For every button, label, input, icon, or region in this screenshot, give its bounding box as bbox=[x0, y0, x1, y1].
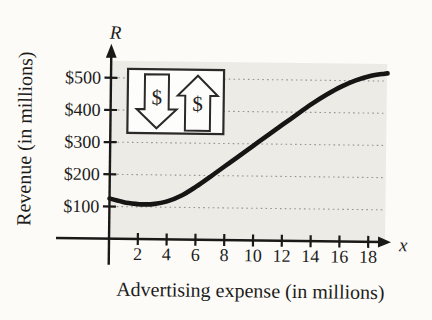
x-tick-label-10: 10 bbox=[244, 245, 262, 265]
dollar-decrease-symbol: $ bbox=[151, 85, 162, 109]
x-axis-title: Advertising expense (in millions) bbox=[116, 278, 385, 304]
x-axis-tick-labels: 24681012141618 bbox=[133, 244, 377, 267]
x-axis-symbol: x bbox=[398, 234, 408, 255]
y-tick-label-400: $400 bbox=[64, 99, 100, 119]
x-tick-label-12: 12 bbox=[273, 246, 291, 266]
y-axis-title: Revenue (in millions) bbox=[12, 51, 37, 226]
scanned-chart: $100$200$300$400$500 24681012141618 $ $ … bbox=[0, 0, 432, 320]
x-tick-label-2: 2 bbox=[133, 244, 142, 264]
icon-legend-box: $ $ bbox=[127, 69, 224, 134]
y-tick-label-500: $500 bbox=[65, 67, 101, 87]
dollar-increase-symbol: $ bbox=[192, 92, 203, 116]
y-axis-arrow-icon bbox=[106, 44, 117, 58]
y-axis-symbol: R bbox=[109, 22, 122, 43]
x-tick-label-4: 4 bbox=[162, 244, 171, 264]
x-tick-label-14: 14 bbox=[301, 246, 319, 266]
y-tick-label-300: $300 bbox=[64, 132, 100, 152]
x-tick-label-8: 8 bbox=[219, 245, 228, 265]
figure: $100$200$300$400$500 24681012141618 $ $ … bbox=[0, 0, 432, 320]
x-tick-label-18: 18 bbox=[359, 247, 377, 267]
y-tick-label-200: $200 bbox=[64, 164, 100, 184]
chart-svg: $100$200$300$400$500 24681012141618 $ $ … bbox=[0, 0, 432, 320]
y-axis-tick-labels: $100$200$300$400$500 bbox=[63, 67, 101, 216]
x-tick-label-6: 6 bbox=[191, 245, 200, 265]
y-tick-label-100: $100 bbox=[63, 196, 99, 216]
x-tick-label-16: 16 bbox=[330, 246, 348, 266]
